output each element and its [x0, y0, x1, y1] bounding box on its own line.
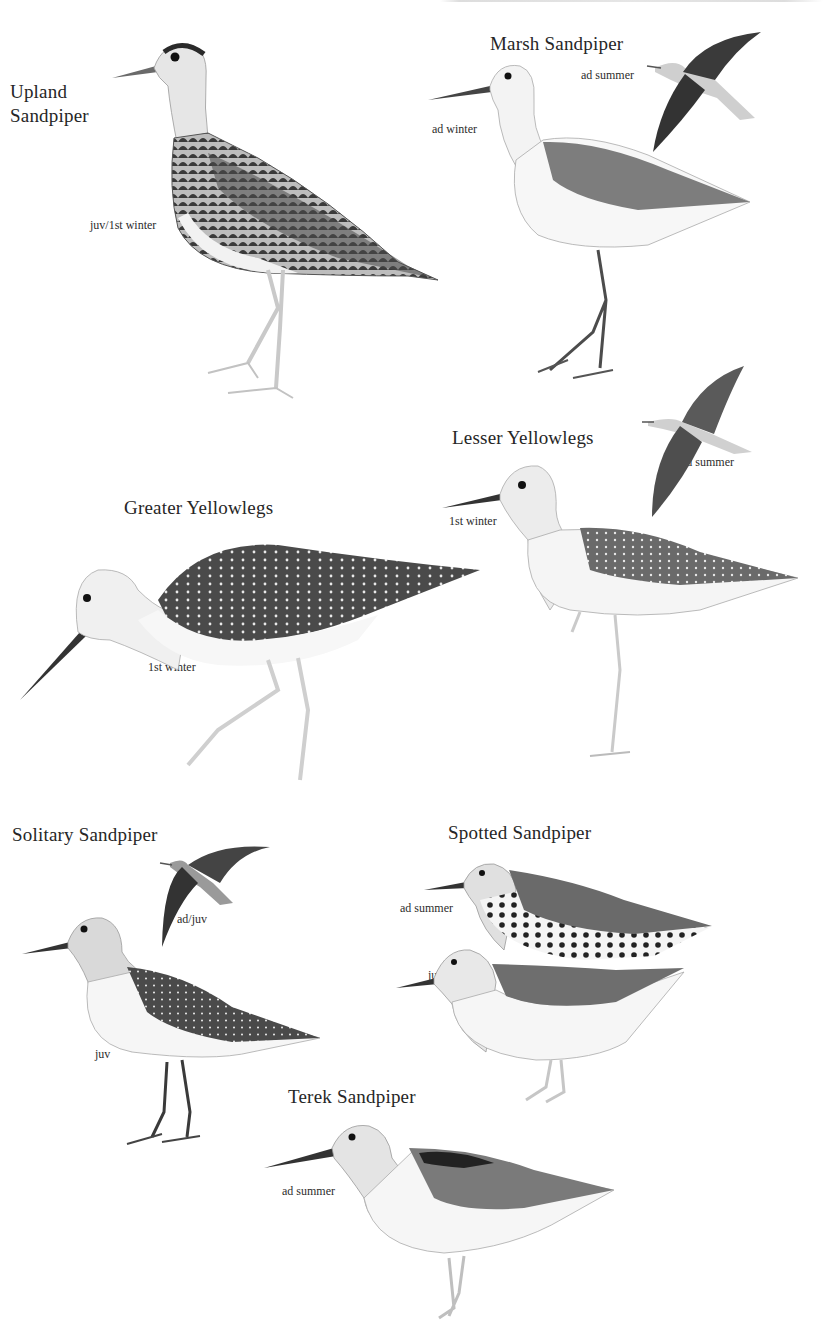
upland-sandpiper-illustration	[108, 38, 443, 408]
spotted-sandpiper-juv-illustration	[396, 942, 686, 1107]
terek-sandpiper-illustration	[264, 1118, 619, 1323]
greater-yellowlegs-illustration	[18, 540, 483, 785]
lesser-yellowlegs-flight-illustration	[642, 362, 757, 522]
species-title-terek-sandpiper: Terek Sandpiper	[288, 1085, 416, 1109]
species-title-greater-yellowlegs: Greater Yellowlegs	[124, 496, 273, 520]
field-guide-plate: Upland Sandpiper juv/1st winter Marsh Sa…	[0, 0, 823, 1334]
species-title-marsh-sandpiper: Marsh Sandpiper	[490, 32, 623, 56]
cropped-header	[440, 0, 823, 4]
species-title-solitary-sandpiper: Solitary Sandpiper	[12, 823, 158, 847]
solitary-sandpiper-illustration	[22, 912, 322, 1152]
species-title-spotted-sandpiper: Spotted Sandpiper	[448, 821, 591, 845]
marsh-sandpiper-flight-illustration	[645, 28, 765, 156]
species-title-line2: Sandpiper	[10, 104, 89, 128]
species-title-upland-sandpiper: Upland Sandpiper	[10, 80, 89, 128]
species-title-lesser-yellowlegs: Lesser Yellowlegs	[452, 426, 594, 450]
species-title-line1: Upland	[10, 80, 89, 104]
